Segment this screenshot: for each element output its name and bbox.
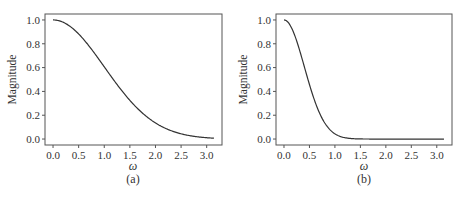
axes-frame [45, 14, 222, 145]
x-tick-label: 0.0 [46, 149, 60, 161]
x-tick-label: 3.0 [430, 149, 444, 161]
x-tick-label: 2.0 [379, 149, 393, 161]
y-tick-label: 0.2 [26, 109, 40, 121]
y-tick-label: 0.0 [26, 133, 40, 145]
y-tick-label: 0.6 [257, 61, 271, 73]
y-tick-label: 0.8 [26, 38, 40, 50]
y-axis-label: Magnitude [6, 55, 19, 105]
x-tick-label: 0.5 [303, 149, 317, 161]
x-tick-label: 0.5 [72, 149, 86, 161]
x-tick-label: 1.0 [328, 149, 342, 161]
panel-caption: (b) [357, 172, 371, 186]
magnitude-curve [284, 20, 444, 139]
y-tick-label: 1.0 [257, 14, 271, 26]
y-tick-label: 0.2 [257, 109, 271, 121]
chart-panel-b: 0.00.20.40.60.81.00.00.51.01.52.02.53.0M… [237, 14, 452, 186]
x-axis-label: ω [360, 159, 368, 173]
x-tick-label: 3.0 [200, 149, 214, 161]
y-tick-label: 0.6 [26, 61, 40, 73]
chart-panel-a: 0.00.20.40.60.81.00.00.51.01.52.02.53.0M… [6, 14, 222, 186]
y-tick-label: 0.8 [257, 38, 271, 50]
y-tick-label: 1.0 [26, 14, 40, 26]
x-tick-label: 0.0 [277, 149, 291, 161]
x-tick-label: 2.5 [174, 149, 188, 161]
axes-frame [276, 14, 452, 145]
x-axis-label: ω [129, 159, 137, 173]
y-tick-label: 0.0 [257, 133, 271, 145]
y-tick-label: 0.4 [257, 85, 271, 97]
x-tick-label: 2.5 [404, 149, 418, 161]
x-tick-label: 2.0 [149, 149, 163, 161]
figure: 0.00.20.40.60.81.00.00.51.01.52.02.53.0M… [0, 0, 461, 198]
y-tick-label: 0.4 [26, 85, 40, 97]
x-tick-label: 1.0 [97, 149, 111, 161]
panel-caption: (a) [126, 172, 139, 186]
y-axis-label: Magnitude [237, 55, 250, 105]
magnitude-curve [53, 20, 214, 138]
